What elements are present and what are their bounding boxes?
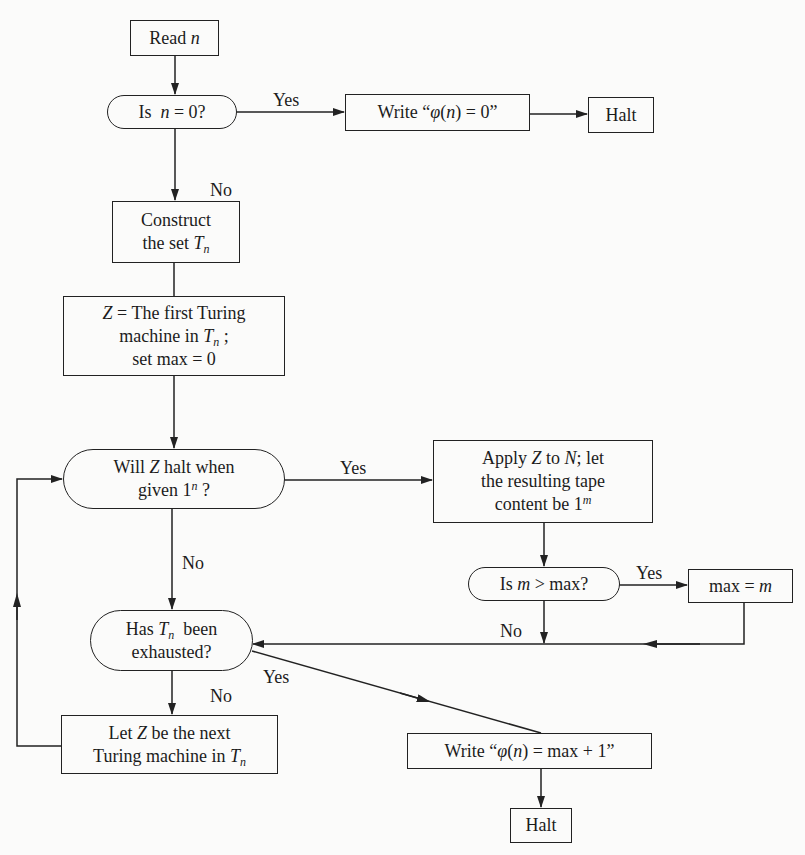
halt-bottom-box: Halt [510,808,572,843]
apply-z-box: Apply Z to N; let the resulting tape con… [433,440,653,523]
next-z-line2: Turing machine in Tn [93,745,246,768]
exhausted-decision: Has Tn been exhausted? [90,610,253,671]
edge-label-halt-no: No [182,553,204,573]
init-z-box: Z = The first Turing machine in Tn ; set… [63,296,285,376]
edge-label-m-gt-max-yes: Yes [636,563,662,583]
edge-label-n-zero-no: No [210,180,232,200]
apply-line1: Apply Z to N; let [482,447,604,470]
write-phi-max-text: Write “φ(n) = max + 1” [445,740,615,763]
apply-line3: content be 1m [495,493,592,516]
construct-line2: the set Tn [142,232,209,255]
construct-set-box: Construct the set Tn [112,201,240,263]
is-m-gt-max-text: Is m > max? [500,573,589,596]
will-halt-line1: Will Z halt when [114,456,235,479]
next-z-line1: Let Z be the next [109,722,231,745]
edge-label-exhausted-no: No [210,686,232,706]
halt-top-box: Halt [588,97,654,133]
will-z-halt-decision: Will Z halt when given 1n ? [63,449,285,509]
init-line1: Z = The first Turing [103,302,246,325]
write-phi-zero-box: Write “φ(n) = 0” [345,94,530,131]
write-phi-zero-text: Write “φ(n) = 0” [378,101,498,124]
is-n-zero-decision: Is n = 0? [107,95,237,129]
init-line3: set max = 0 [132,348,216,371]
edge-label-n-zero-yes: Yes [273,90,299,110]
edge-label-m-gt-max-no: No [500,621,522,641]
edge-label-halt-yes: Yes [340,458,366,478]
halt-top-text: Halt [606,104,637,127]
exhausted-line2: exhausted? [132,641,212,664]
read-n-text: Read n [149,27,199,50]
exhausted-line1: Has Tn been [126,618,218,641]
apply-line2: the resulting tape [481,470,605,493]
set-max-text: max = m [709,575,772,598]
read-n-box: Read n [130,20,219,56]
edge-label-exhausted-yes: Yes [263,667,289,687]
halt-bottom-text: Halt [526,814,557,837]
init-line2: machine in Tn ; [119,325,229,348]
construct-line1: Construct [141,209,211,232]
next-z-box: Let Z be the next Turing machine in Tn [61,715,278,774]
write-phi-max-box: Write “φ(n) = max + 1” [407,733,652,769]
is-n-zero-text: Is n = 0? [138,101,205,124]
will-halt-line2: given 1n ? [138,479,210,502]
is-m-gt-max-decision: Is m > max? [468,567,620,601]
set-max-box: max = m [688,569,793,603]
